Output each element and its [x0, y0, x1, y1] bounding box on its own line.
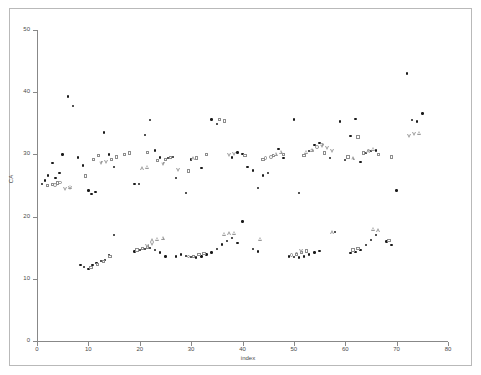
data-point-tri-up — [310, 148, 314, 152]
data-point-square — [108, 255, 111, 258]
data-point-dot — [313, 251, 315, 253]
data-point-dot — [221, 243, 223, 245]
data-point-dot — [252, 169, 254, 171]
data-point-tri-down — [320, 144, 324, 148]
data-point-square — [123, 153, 126, 156]
data-point-tri-up — [258, 237, 262, 241]
data-point-dot — [87, 189, 89, 191]
y-tick — [33, 217, 37, 218]
data-point-square — [351, 248, 354, 251]
data-point-dot — [164, 255, 166, 257]
data-point-dot — [205, 253, 207, 255]
data-point-dot — [257, 250, 259, 252]
data-point-dot — [200, 255, 202, 257]
data-point-square — [362, 151, 365, 154]
data-point-dot — [103, 131, 105, 133]
data-point-dot — [411, 119, 413, 121]
data-point-dot — [61, 153, 63, 155]
data-point-dot — [257, 187, 259, 189]
data-point-dot — [246, 166, 248, 168]
y-tick — [33, 154, 37, 155]
data-point-dot — [241, 220, 243, 222]
data-point-square — [390, 155, 393, 158]
data-point-dot — [390, 244, 392, 246]
data-point-square — [346, 155, 349, 158]
data-point-dot — [51, 162, 53, 164]
data-point-tri-up — [232, 231, 236, 235]
data-point-dot — [318, 250, 320, 252]
data-point-tri-up — [222, 232, 226, 236]
data-point-dot — [298, 192, 300, 194]
y-tick-label: 0 — [8, 337, 30, 344]
data-point-dot — [54, 177, 56, 179]
data-point-square — [356, 135, 359, 138]
data-point-dot — [180, 253, 182, 255]
data-point-tri-down — [104, 160, 108, 164]
x-tick-label: 10 — [76, 346, 100, 353]
data-point-dot — [149, 247, 151, 249]
x-tick-label: 30 — [179, 346, 203, 353]
data-point-square — [128, 151, 131, 154]
data-point-dot — [159, 156, 161, 158]
data-point-square — [323, 151, 326, 154]
data-point-square — [141, 247, 144, 250]
data-point-square — [243, 154, 246, 157]
data-point-dot — [133, 183, 135, 185]
data-point-dot — [200, 167, 202, 169]
data-point-tri-down — [145, 244, 149, 248]
data-point-square — [156, 159, 159, 162]
data-point-square — [223, 119, 226, 122]
data-point-tri-down — [330, 149, 334, 153]
data-point-square — [84, 174, 87, 177]
data-point-dot — [349, 135, 351, 137]
data-point-dot — [83, 266, 85, 268]
data-point-square — [387, 239, 390, 242]
y-tick — [33, 92, 37, 93]
data-point-dot — [349, 252, 351, 254]
data-point-dot — [375, 149, 377, 151]
data-point-dot — [216, 123, 218, 125]
data-point-dot — [108, 153, 110, 155]
data-point-dot — [216, 248, 218, 250]
data-point-dot — [185, 192, 187, 194]
data-point-tri-up — [140, 166, 144, 170]
data-point-dot — [329, 157, 331, 159]
data-point-dot — [354, 118, 356, 120]
x-tick-label: 20 — [128, 346, 152, 353]
y-tick-label: 30 — [8, 150, 30, 157]
x-tick-label: 0 — [25, 346, 49, 353]
data-point-dot — [303, 255, 305, 257]
data-point-dot — [359, 249, 361, 251]
data-point-square — [96, 263, 99, 266]
data-point-square — [169, 156, 172, 159]
data-point-square — [218, 118, 221, 121]
data-point-dot — [195, 256, 197, 258]
data-point-tri-up — [366, 149, 370, 153]
data-point-dot — [113, 234, 115, 236]
y-tick-label: 10 — [8, 275, 30, 282]
data-point-dot — [395, 189, 397, 191]
data-point-tri-up — [304, 150, 308, 154]
data-point-square — [305, 249, 308, 252]
data-point-square — [110, 158, 113, 161]
data-point-square — [356, 247, 359, 250]
data-point-dot — [154, 149, 156, 151]
y-tick-label: 40 — [8, 88, 30, 95]
data-point-dot — [149, 119, 151, 121]
data-point-tri-down — [299, 249, 303, 253]
data-point-circle — [290, 253, 294, 257]
data-point-tri-up — [417, 131, 421, 135]
data-point-square — [89, 266, 92, 269]
data-point-dot — [293, 118, 295, 120]
data-point-circle — [53, 183, 57, 187]
data-point-dot — [67, 95, 69, 97]
data-point-dot — [416, 120, 418, 122]
data-point-dot — [77, 156, 79, 158]
data-point-dot — [82, 164, 84, 166]
data-point-tri-up — [145, 165, 149, 169]
data-point-dot — [210, 118, 212, 120]
data-point-square — [377, 153, 380, 156]
data-point-dot — [236, 242, 238, 244]
data-point-square — [135, 248, 138, 251]
data-point-tri-up — [376, 228, 380, 232]
